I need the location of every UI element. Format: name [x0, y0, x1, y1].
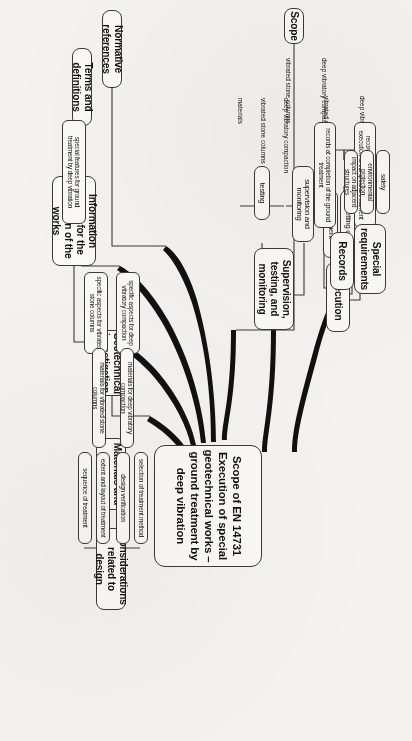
sub-node-materials-vsc[interactable]: materials for vibrated stone columns	[92, 348, 106, 448]
branch-node-normative-references[interactable]: Normative references	[102, 10, 122, 88]
sub-label-extent-and-layout-of-treatment: extent and layout of treatment	[99, 459, 106, 538]
sub-node-impact-adjacent-structures[interactable]: impact on adjacent structures	[344, 150, 358, 214]
branch-label-supervision: Supervision, testing, and monitoring	[256, 252, 293, 326]
central-node-label: Scope of EN 14731 Execution of special g…	[173, 449, 243, 563]
sub-label-safety: safety	[379, 174, 386, 190]
connector-layer	[0, 0, 412, 741]
branch-node-supervision[interactable]: Supervision, testing, and monitoring	[254, 248, 294, 330]
sub-node-materials-dvc[interactable]: materials for deep vibratory compaction	[120, 348, 134, 448]
sub-label-records-at-completion: records at completion of the ground trea…	[318, 126, 332, 224]
branch-label-normative-references: Normative references	[100, 14, 124, 84]
branch-label-records: Records	[336, 241, 348, 280]
branch-node-scope[interactable]: Scope	[284, 8, 304, 44]
sub-node-selection-of-treatment-method[interactable]: selection of treatment method	[134, 452, 148, 544]
branch-label-special-requirements: Special requirements	[358, 228, 382, 290]
sub-node-testing[interactable]: testing	[254, 166, 270, 220]
leaf-label-testing-dvc: deep vibratory compaction	[283, 98, 290, 173]
sub-label-specific-aspects-dvc: specific aspects for deep vibratory comp…	[121, 276, 135, 350]
leaf-label-testing-materials: materials	[237, 98, 244, 124]
branch-label-scope: Scope	[288, 11, 300, 41]
mindmap-canvas: Scope of EN 14731 Execution of special g…	[0, 0, 412, 741]
sub-node-records-at-completion[interactable]: records at completion of the ground trea…	[314, 122, 336, 228]
branch-node-terms-and-definitions[interactable]: Terms and definitions	[72, 48, 92, 126]
sub-node-specific-aspects-vsc[interactable]: specific aspects for vibrated stone colu…	[84, 272, 108, 354]
sub-label-materials-vsc: materials for vibrated stone columns	[92, 352, 106, 444]
branch-node-special-requirements[interactable]: Special requirements	[354, 224, 386, 294]
sub-label-materials-dvc: materials for deep vibratory compaction	[120, 352, 134, 444]
leaf-label-testing-vsc: vibrated stone columns	[260, 98, 267, 164]
central-node[interactable]: Scope of EN 14731 Execution of special g…	[154, 445, 262, 567]
sub-node-extent-and-layout-of-treatment[interactable]: extent and layout of treatment	[96, 452, 110, 544]
sub-node-safety[interactable]: safety	[376, 150, 390, 214]
sub-label-environmental-protection: environmental protection	[360, 154, 374, 210]
sub-node-special-features[interactable]: special features for ground treatment by…	[62, 120, 86, 224]
sub-label-supervision-and-monitoring: supervision and monitoring	[295, 170, 312, 238]
sub-label-testing: testing	[258, 183, 266, 204]
branch-label-terms-and-definitions: Terms and definitions	[70, 52, 94, 122]
sub-node-sequence-of-treatment[interactable]: sequence of treatment	[78, 452, 92, 544]
sub-label-design-verification: design verification	[119, 474, 126, 521]
sub-node-environmental-protection[interactable]: environmental protection	[360, 150, 374, 214]
sub-label-specific-aspects-vsc: specific aspects for vibrated stone colu…	[89, 276, 103, 350]
sub-node-design-verification[interactable]: design verification	[116, 452, 130, 544]
sub-label-special-features: special features for ground treatment by…	[67, 124, 81, 220]
sub-node-specific-aspects-dvc[interactable]: specific aspects for deep vibratory comp…	[116, 272, 140, 354]
sub-label-selection-of-treatment-method: selection of treatment method	[137, 459, 144, 537]
sub-label-impact-adjacent-structures: impact on adjacent structures	[344, 154, 358, 210]
mindmap-rotated-canvas: Scope of EN 14731 Execution of special g…	[0, 0, 412, 741]
branch-node-records[interactable]: Records	[330, 232, 354, 290]
sub-label-sequence-of-treatment: sequence of treatment	[81, 468, 88, 527]
sub-node-supervision-and-monitoring[interactable]: supervision and monitoring	[292, 166, 314, 242]
